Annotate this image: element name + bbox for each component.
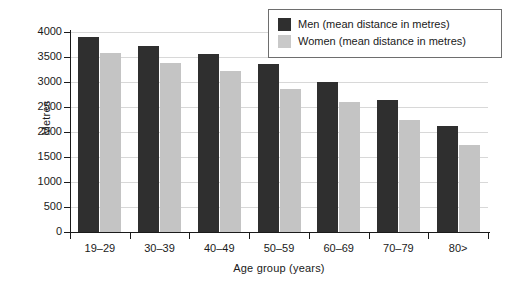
bar-women-40-49 xyxy=(220,71,241,232)
bar-men-30-39 xyxy=(138,46,159,232)
y-tick-label: 500 xyxy=(10,201,62,212)
chart-legend: Men (mean distance in metres) Women (mea… xyxy=(268,9,502,58)
bar-women-19-29 xyxy=(100,53,121,232)
y-tick-mark xyxy=(64,132,70,133)
legend-label-men: Men (mean distance in metres) xyxy=(298,18,450,31)
bar-men-19-29 xyxy=(78,37,99,232)
plot-area xyxy=(70,32,488,232)
x-tick-mark xyxy=(428,233,429,239)
bar-chart: Metres 05001000150020002500300035004000 … xyxy=(0,0,514,293)
y-tick-mark xyxy=(64,82,70,83)
y-tick-mark xyxy=(64,157,70,158)
legend-item-men: Men (mean distance in metres) xyxy=(278,16,492,33)
legend-swatch-men-icon xyxy=(278,18,291,31)
y-tick-label: 0 xyxy=(10,226,62,237)
y-tick-label: 3500 xyxy=(10,51,62,62)
y-tick-mark xyxy=(64,207,70,208)
y-axis-title: Metres xyxy=(40,78,52,158)
y-axis-line xyxy=(70,30,71,234)
bar-women-80> xyxy=(459,145,480,232)
bar-men-50-59 xyxy=(258,64,279,232)
bar-women-60-69 xyxy=(339,102,360,232)
legend-item-women: Women (mean distance in metres) xyxy=(278,33,492,50)
x-tick-mark xyxy=(189,233,190,239)
x-tick-label: 80> xyxy=(428,242,488,254)
bar-women-70-79 xyxy=(399,120,420,233)
x-axis-title: Age group (years) xyxy=(70,262,488,274)
y-tick-label: 3000 xyxy=(10,76,62,87)
x-tick-label: 50–59 xyxy=(249,242,309,254)
x-tick-label: 60–69 xyxy=(309,242,369,254)
x-tick-mark xyxy=(130,233,131,239)
y-tick-mark xyxy=(64,182,70,183)
x-axis-line xyxy=(68,232,490,233)
bar-men-40-49 xyxy=(198,54,219,233)
bar-men-60-69 xyxy=(317,82,338,232)
bar-women-30-39 xyxy=(160,63,181,232)
x-tick-label: 40–49 xyxy=(189,242,249,254)
y-tick-mark xyxy=(64,32,70,33)
y-tick-label: 1000 xyxy=(10,176,62,187)
y-tick-label: 1500 xyxy=(10,151,62,162)
legend-swatch-women-icon xyxy=(278,35,291,48)
x-tick-label: 19–29 xyxy=(70,242,130,254)
x-tick-mark xyxy=(70,233,71,239)
y-tick-label: 4000 xyxy=(10,26,62,37)
x-tick-label: 70–79 xyxy=(369,242,429,254)
x-tick-mark xyxy=(369,233,370,239)
x-tick-mark xyxy=(249,233,250,239)
x-tick-mark xyxy=(309,233,310,239)
grid-line xyxy=(70,82,488,83)
y-tick-mark xyxy=(64,107,70,108)
bar-men-70-79 xyxy=(377,100,398,233)
y-tick-label: 2000 xyxy=(10,126,62,137)
bar-men-80> xyxy=(437,126,458,232)
x-tick-label: 30–39 xyxy=(130,242,190,254)
legend-label-women: Women (mean distance in metres) xyxy=(298,35,466,48)
y-tick-label: 2500 xyxy=(10,101,62,112)
bar-women-50-59 xyxy=(280,89,301,233)
x-tick-mark xyxy=(488,233,489,239)
y-tick-mark xyxy=(64,57,70,58)
